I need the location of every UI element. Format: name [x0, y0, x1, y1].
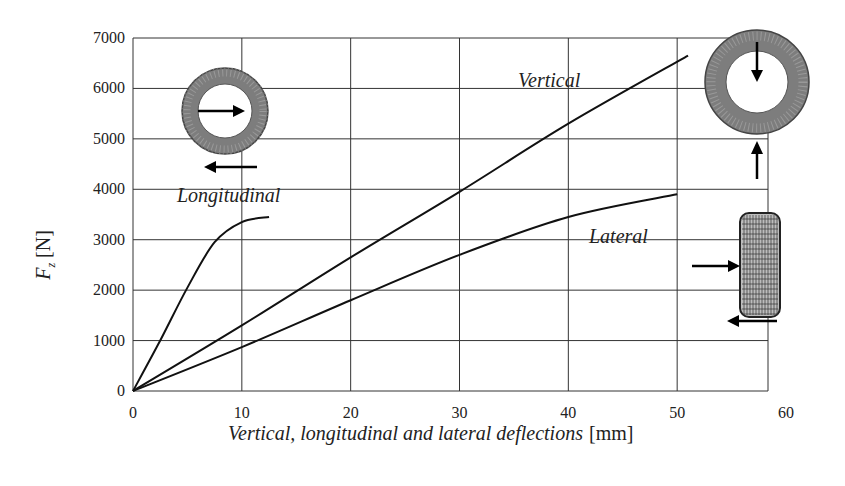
y-tick-label: 4000	[93, 180, 125, 197]
label-lateral: Lateral	[588, 225, 648, 247]
y-tick-label: 5000	[93, 130, 125, 147]
y-axis-unit: [N]	[32, 230, 54, 258]
y-tick-label: 7000	[93, 29, 125, 46]
label-longitudinal: Longitudinal	[176, 184, 281, 207]
tire-vertical-icon	[705, 30, 809, 179]
x-axis-title: Vertical, longitudinal and lateral defle…	[228, 422, 633, 445]
deflection-chart: 0100020003000400050006000700001020304050…	[0, 0, 845, 486]
x-tick-label: 20	[343, 404, 359, 421]
tire-lateral-icon	[692, 213, 780, 327]
x-tick-label: 60	[778, 404, 794, 421]
curve-longitudinal	[133, 217, 269, 391]
y-axis-symbol: F	[32, 267, 54, 281]
x-tick-label: 50	[669, 404, 685, 421]
x-axis-title-text: Vertical, longitudinal and lateral defle…	[228, 422, 583, 445]
y-axis-subscript: z	[44, 263, 58, 269]
y-tick-label: 3000	[93, 231, 125, 248]
y-tick-label: 2000	[93, 281, 125, 298]
y-tick-label: 0	[117, 382, 125, 399]
y-axis-title: Fz[N]	[32, 230, 58, 281]
tire-longitudinal-icon	[182, 68, 268, 173]
x-tick-label: 30	[452, 404, 468, 421]
y-tick-label: 1000	[93, 332, 125, 349]
x-tick-label: 40	[560, 404, 576, 421]
y-tick-label: 6000	[93, 79, 125, 96]
x-tick-label: 0	[129, 404, 137, 421]
x-tick-label: 10	[234, 404, 250, 421]
label-vertical: Vertical	[518, 69, 581, 91]
x-axis-unit: [mm]	[589, 422, 633, 444]
